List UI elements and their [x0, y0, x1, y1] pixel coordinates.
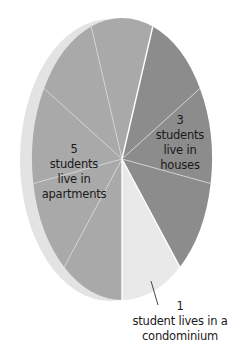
- houses-label-line: houses: [148, 158, 212, 173]
- apartments-label-line: apartments: [38, 187, 110, 202]
- apartments-label-line: live in: [38, 172, 110, 187]
- apartments-label-line: students: [38, 157, 110, 172]
- houses-label-line: students: [148, 128, 212, 143]
- label-houses: 3 students live in houses: [148, 113, 212, 173]
- condominium-label-line: student lives in a: [128, 314, 232, 329]
- apartments-count: 5: [38, 142, 110, 157]
- houses-count: 3: [148, 113, 212, 128]
- condominium-label-line: condominium: [128, 329, 232, 344]
- houses-label-line: live in: [148, 143, 212, 158]
- condominium-count: 1: [128, 299, 232, 314]
- label-condominium: 1 student lives in a condominium: [128, 299, 232, 344]
- label-apartments: 5 students live in apartments: [38, 142, 110, 202]
